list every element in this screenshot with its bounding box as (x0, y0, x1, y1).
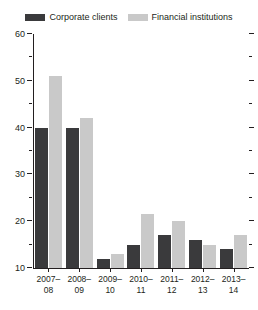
x-axis-label-line-1: 11 (126, 285, 157, 296)
y-axis-right-minor-tick-mark-55 (249, 56, 252, 57)
y-axis-tick-60: 60 (0, 29, 33, 39)
bar-group-2009-10 (95, 34, 126, 268)
bar-group-2008-09 (64, 34, 95, 268)
bar-chart: Corporate clients Financial institutions… (0, 0, 258, 310)
x-axis-label-2008-09: 2008–09 (64, 274, 95, 296)
y-axis-tick-label-20: 20 (15, 216, 25, 226)
y-axis-tick-label-30: 30 (15, 169, 25, 179)
x-axis-label-line-0: 2007– (33, 274, 64, 285)
bar-group-2010-11 (126, 34, 157, 268)
legend-swatch-financial-institutions (128, 14, 148, 21)
y-axis-minor-tick-mark-55 (29, 56, 32, 57)
x-axis-label-2011-12: 2011–12 (156, 274, 187, 296)
x-axis-label-line-1: 08 (33, 285, 64, 296)
bar-financial-institutions-2011-12 (172, 221, 185, 268)
bar-financial-institutions-2007-08 (49, 76, 62, 268)
y-axis-right-tick-30 (249, 169, 255, 179)
y-axis-tick-mark-30 (27, 173, 32, 174)
chart-legend: Corporate clients Financial institutions (0, 10, 258, 24)
bar-corporate-clients-2012-13 (189, 240, 202, 268)
y-axis-right-tick-40 (249, 123, 255, 133)
y-axis-minor-tick-25 (0, 193, 33, 203)
y-axis-right-tick-10 (249, 263, 255, 273)
x-axis-tick-2012-13 (203, 268, 204, 272)
y-axis-tick-mark-50 (27, 80, 32, 81)
x-axis-label-line-0: 2012– (187, 274, 218, 285)
plot-area (33, 34, 249, 268)
y-axis-tick-label-40: 40 (15, 123, 25, 133)
x-axis-tick-2011-12 (172, 268, 173, 272)
y-axis-tick-20: 20 (0, 216, 33, 226)
bar-corporate-clients-2008-09 (66, 128, 79, 268)
x-axis-label-2009-10: 2009–10 (95, 274, 126, 296)
y-axis-tick-mark-10 (27, 267, 32, 268)
x-axis-tick-2008-09 (79, 268, 80, 272)
y-axis-right-minor-tick-45 (249, 99, 255, 109)
y-axis-minor-tick-mark-45 (29, 103, 32, 104)
y-axis-right-tick-20 (249, 216, 255, 226)
bar-financial-institutions-2013-14 (234, 235, 247, 268)
y-axis-right-tick-mark-30 (249, 173, 254, 174)
x-axis-labels: 2007–082008–092009–102010–112011–122012–… (33, 274, 249, 306)
y-axis-tick-10: 10 (0, 263, 33, 273)
x-axis-label-2007-08: 2007–08 (33, 274, 64, 296)
x-axis-label-2010-11: 2010–11 (126, 274, 157, 296)
legend-entry-financial-institutions: Financial institutions (128, 12, 233, 22)
x-axis-label-2013-14: 2013–14 (218, 274, 249, 296)
x-axis-label-line-1: 09 (64, 285, 95, 296)
bar-group-2013-14 (218, 34, 249, 268)
y-axis-right-tick-mark-60 (249, 33, 254, 34)
y-axis-tick-mark-60 (27, 33, 32, 34)
bar-corporate-clients-2011-12 (158, 235, 171, 268)
y-axis-right-minor-tick-mark-15 (249, 244, 252, 245)
y-axis-tick-40: 40 (0, 123, 33, 133)
bar-group-2007-08 (33, 34, 64, 268)
legend-swatch-corporate-clients (25, 14, 45, 21)
x-axis-label-line-0: 2011– (156, 274, 187, 285)
y-axis-minor-tick-mark-15 (29, 244, 32, 245)
bar-financial-institutions-2008-09 (80, 118, 93, 268)
y-axis-tick-label-60: 60 (15, 29, 25, 39)
y-axis-minor-tick-mark-25 (29, 197, 32, 198)
x-axis-tick-2013-14 (234, 268, 235, 272)
x-axis-label-line-1: 13 (187, 285, 218, 296)
y-axis-tick-mark-20 (27, 220, 32, 221)
legend-label-financial-institutions: Financial institutions (152, 12, 233, 22)
y-axis-minor-tick-15 (0, 240, 33, 250)
x-axis-label-2012-13: 2012–13 (187, 274, 218, 296)
y-axis-minor-tick-55 (0, 52, 33, 62)
bar-corporate-clients-2009-10 (97, 259, 110, 268)
x-axis-label-line-0: 2008– (64, 274, 95, 285)
y-axis-tick-mark-40 (27, 127, 32, 128)
y-axis-minor-tick-45 (0, 99, 33, 109)
y-axis-tick-label-10: 10 (15, 263, 25, 273)
bar-group-2012-13 (187, 34, 218, 268)
bar-financial-institutions-2009-10 (111, 254, 124, 268)
y-axis-tick-50: 50 (0, 76, 33, 86)
y-axis-right-minor-tick-mark-45 (249, 103, 252, 104)
legend-label-corporate-clients: Corporate clients (49, 12, 117, 22)
y-axis-right-tick-mark-50 (249, 80, 254, 81)
y-axis-minor-tick-35 (0, 146, 33, 156)
y-axis-right-minor-tick-15 (249, 240, 255, 250)
y-axis-tick-label-50: 50 (15, 76, 25, 86)
bar-corporate-clients-2013-14 (220, 249, 233, 268)
x-axis-label-line-1: 14 (218, 285, 249, 296)
x-axis-label-line-1: 12 (156, 285, 187, 296)
x-axis-label-line-0: 2013– (218, 274, 249, 285)
bar-corporate-clients-2010-11 (127, 245, 140, 268)
bar-group-2011-12 (156, 34, 187, 268)
x-axis-label-line-1: 10 (95, 285, 126, 296)
y-axis-right-minor-tick-mark-35 (249, 150, 252, 151)
y-axis-right-tick-mark-40 (249, 127, 254, 128)
y-axis-tick-30: 30 (0, 169, 33, 179)
bar-corporate-clients-2007-08 (35, 128, 48, 268)
y-axis-right-tick-mark-20 (249, 220, 254, 221)
y-axis-right-tick-60 (249, 29, 255, 39)
bar-financial-institutions-2012-13 (203, 245, 216, 268)
x-axis-tick-2009-10 (110, 268, 111, 272)
y-axis-right-minor-tick-25 (249, 193, 255, 203)
y-axis-minor-tick-mark-35 (29, 150, 32, 151)
y-axis-right-minor-tick-mark-25 (249, 197, 252, 198)
y-axis-right-tick-mark-10 (249, 267, 254, 268)
